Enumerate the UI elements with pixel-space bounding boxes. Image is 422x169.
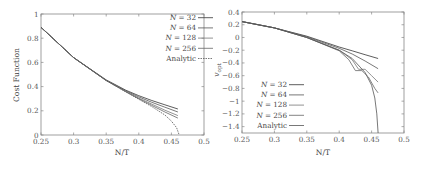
cost-function-plot: 0.250.30.350.40.450.5 00.20.40.60.81 N/T… [12, 10, 213, 158]
y-tick-label: 0.4 [228, 8, 240, 17]
legend-label: N = 64 [260, 90, 287, 99]
y-tick-label: 0.2 [228, 20, 239, 29]
y-tick-label: −0.6 [222, 71, 240, 80]
x-tick-label: 0.5 [198, 137, 210, 146]
y-tick-label: 0 [235, 33, 240, 42]
x-tick-label: 0.4 [333, 135, 345, 144]
x-tick-label: 0.3 [68, 137, 80, 146]
legend-label: N = 32 [260, 80, 287, 89]
y-tick-label: 0 [34, 131, 39, 140]
x-tick-label: 0.35 [98, 137, 114, 146]
x-tick-label: 0.5 [398, 135, 410, 144]
legend: N = 32N = 64N = 128N = 256Analytic [255, 80, 304, 130]
y-tick-label: −0.4 [222, 58, 240, 67]
legend-label: N = 256 [164, 44, 196, 53]
x-tick-label: 0.45 [364, 135, 380, 144]
series-n-32 [242, 22, 378, 59]
y-tick-label: 0.8 [27, 34, 39, 43]
y-axis-label: Cost Function [12, 48, 21, 102]
legend-label: Analytic [165, 54, 196, 63]
x-tick-label: 0.4 [133, 137, 145, 146]
y-tick-label: 0.6 [27, 58, 39, 67]
series-n-64 [41, 27, 178, 112]
y-tick-label: 1 [34, 10, 39, 19]
legend-label: N = 256 [255, 111, 287, 120]
y-axis-label-sub: opt [216, 63, 223, 73]
y-tick-label: −0.2 [222, 46, 239, 55]
legend: N = 32N = 64N = 128N = 256Analytic [164, 13, 213, 63]
y-tick-label: −0.8 [222, 84, 240, 93]
y-tick-label: 0.4 [27, 82, 39, 91]
series-n-32 [41, 27, 178, 109]
y-tick-label: 0.2 [27, 106, 38, 115]
y-tick-label: −1 [229, 97, 240, 106]
x-tick-label: 0.45 [163, 137, 179, 146]
x-tick-label: 0.3 [269, 135, 281, 144]
v-opt-plot: 0.250.30.350.40.450.5 0.40.20−0.2−0.4−0.… [212, 8, 410, 158]
series-n-128 [242, 22, 378, 83]
y-tick-label: −1.2 [222, 109, 239, 118]
legend-label: Analytic [256, 121, 287, 130]
figure: 0.250.30.350.40.450.5 00.20.40.60.81 N/T… [0, 0, 422, 169]
y-tick-label: −1.4 [222, 122, 240, 131]
legend-label: N = 128 [255, 100, 287, 109]
legend-label: N = 128 [164, 33, 196, 42]
series-analytic [41, 27, 179, 135]
x-axis-label: N/T [115, 148, 129, 157]
x-axis-label: N/T [316, 148, 330, 157]
legend-label: N = 32 [169, 13, 196, 22]
legend-label: N = 64 [169, 23, 196, 32]
series-n-64 [242, 22, 378, 69]
data-series [41, 27, 179, 135]
x-tick-label: 0.25 [234, 135, 250, 144]
x-tick-label: 0.35 [299, 135, 315, 144]
